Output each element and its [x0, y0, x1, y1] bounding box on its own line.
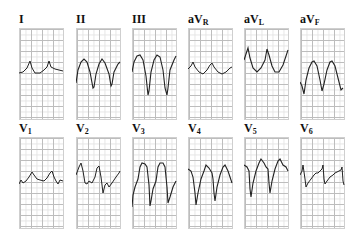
ecg-trace [300, 137, 345, 229]
ecg-trace [132, 137, 177, 229]
ecg-trace [300, 28, 345, 120]
ecg-trace [76, 28, 121, 120]
ecg-trace [19, 137, 64, 229]
ecg-trace [188, 28, 233, 120]
ecg-trace [76, 137, 121, 229]
ecg-trace [19, 28, 64, 120]
ecg-trace [244, 137, 289, 229]
ecg-trace [244, 28, 289, 120]
ecg-trace [188, 137, 233, 229]
ecg-trace [132, 28, 177, 120]
